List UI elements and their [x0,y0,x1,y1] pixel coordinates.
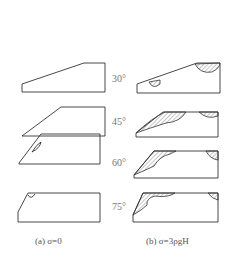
slope-a-60 [19,134,100,164]
angle-label-30: 30° [112,73,126,84]
angle-label-45: 45° [112,116,126,127]
zone-b-30-toe [149,80,160,87]
caption-b: (b) σ=3ρgH [146,236,189,246]
zone-b-75-crest [208,193,218,200]
slope-a-30 [22,63,105,92]
caption-a: (a) σ=0 [35,236,62,246]
zone-b-60-crest [206,151,218,160]
zone-b-45-slope [136,112,186,133]
zone-b-75-slope [133,193,175,215]
angle-label-75: 75° [112,201,126,212]
zone-b-60-slope [134,151,176,175]
zone-b-45-crest [199,112,218,117]
slope-diagram [0,0,233,264]
slope-a-45 [22,107,105,136]
arc-a-75 [28,194,35,197]
angle-label-60: 60° [112,157,126,168]
zone-b-30-crest [195,63,220,72]
